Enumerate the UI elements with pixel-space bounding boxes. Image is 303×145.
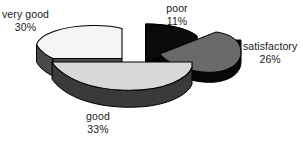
pie-label-good-percent: 33% (74, 123, 122, 136)
pie-label-very-good-name: very good (2, 8, 49, 21)
pie-chart: very good 30% poor 11% satisfactory 26% … (0, 0, 303, 145)
pie-label-very-good-percent: 30% (2, 21, 49, 34)
pie-label-good: good 33% (74, 110, 122, 135)
pie-label-good-name: good (74, 110, 122, 123)
pie-label-poor-name: poor (150, 2, 204, 15)
pie-label-satisfactory-name: satisfactory (243, 40, 297, 53)
pie-label-poor-percent: 11% (150, 15, 204, 28)
pie-label-satisfactory: satisfactory 26% (243, 40, 297, 65)
pie-slice-good[interactable] (52, 62, 192, 107)
pie-label-satisfactory-percent: 26% (243, 53, 297, 66)
pie-label-very-good: very good 30% (2, 8, 49, 33)
pie-label-poor: poor 11% (150, 2, 204, 27)
pie-slice-very-good-top (37, 25, 123, 58)
